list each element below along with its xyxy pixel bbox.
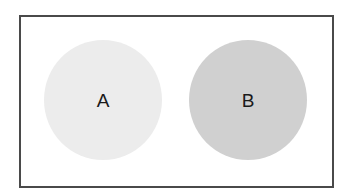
circle-b-label: B xyxy=(242,91,255,110)
circle-b: B xyxy=(189,40,307,160)
circle-a-label: A xyxy=(97,91,110,110)
circle-a: A xyxy=(44,40,162,160)
